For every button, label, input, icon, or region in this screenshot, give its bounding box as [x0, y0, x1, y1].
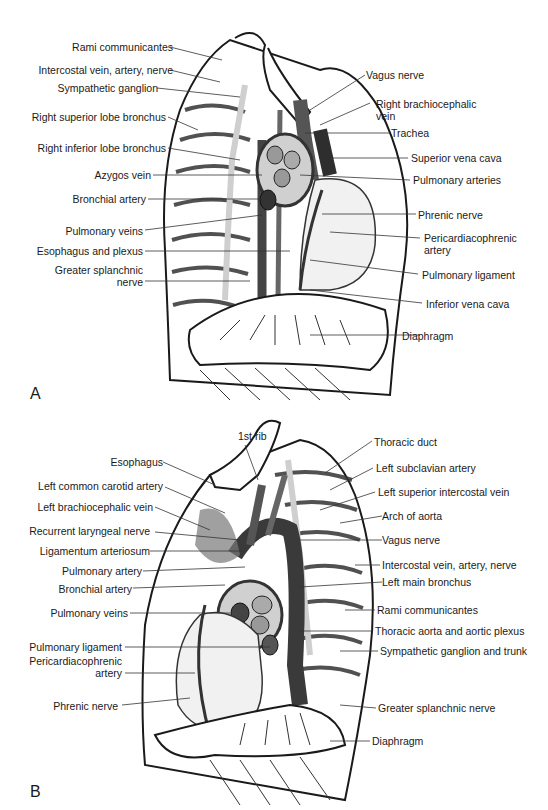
label-left-subclavian-artery: Left subclavian artery [376, 462, 476, 474]
label-left-main-bronchus: Left main bronchus [382, 576, 471, 588]
label-diaphragm: Diaphragm [402, 330, 453, 342]
label-vagus-nerve: Vagus nerve [382, 534, 440, 546]
label-inferior-vena-cava: Inferior vena cava [426, 298, 509, 310]
label-phrenic-nerve: Phrenic nerve [418, 209, 483, 221]
label-bronchial-artery: Bronchial artery [72, 193, 146, 205]
label-pulmonary-ligament: Pulmonary ligament [422, 269, 515, 281]
label-bronchial-artery: Bronchial artery [58, 583, 132, 595]
panel-b-left-mediastinum: 1st rib Esophagus Left common carotid ar… [0, 405, 548, 810]
label-esophagus: Esophagus [110, 456, 163, 468]
label-recurrent-laryngeal-nerve: Recurrent laryngeal nerve [29, 525, 150, 537]
label-arch-of-aorta: Arch of aorta [382, 510, 442, 522]
label-pericardiacophrenic: Pericardiacophrenic [424, 232, 517, 244]
label-azygos-vein: Azygos vein [94, 169, 151, 181]
label-greater-splanchnic-nerve: Greater splanchnic nerve [378, 702, 495, 714]
label-diaphragm: Diaphragm [372, 735, 423, 747]
label-pericardiacophrenic-artery-cont: artery [424, 244, 451, 256]
panel-letter-a: A [30, 385, 41, 403]
label-right-brachiocephalic: Right brachiocephalic [376, 98, 476, 110]
label-intercostal-vein-artery-nerve: Intercostal vein, artery, nerve [382, 559, 517, 571]
label-vagus-nerve: Vagus nerve [366, 69, 424, 81]
label-thoracic-aorta-and-aortic-plexus: Thoracic aorta and aortic plexus [375, 625, 524, 637]
label-sympathetic-ganglion-and-trunk: Sympathetic ganglion and trunk [380, 645, 527, 657]
label-trachea: Trachea [391, 127, 429, 139]
label-greater-splanchnic-nerve-cont: nerve [117, 276, 143, 288]
label-thoracic-duct: Thoracic duct [374, 436, 437, 448]
label-right-superior-lobe-bronchus: Right superior lobe bronchus [32, 111, 166, 123]
label-pulmonary-artery: Pulmonary artery [62, 565, 142, 577]
label-rami-communicantes: Rami communicantes [377, 604, 478, 616]
label-pulmonary-veins: Pulmonary veins [50, 607, 128, 619]
label-esophagus-and-plexus: Esophagus and plexus [37, 245, 143, 257]
panel-a-right-mediastinum: Rami communicantes Intercostal vein, art… [0, 0, 548, 405]
label-pulmonary-arteries: Pulmonary arteries [413, 174, 501, 186]
label-right-inferior-lobe-bronchus: Right inferior lobe bronchus [38, 142, 166, 154]
label-pulmonary-ligament: Pulmonary ligament [29, 641, 122, 653]
label-pericardiacophrenic: Pericardiacophrenic [29, 655, 122, 667]
label-intercostal-vein-artery-nerve: Intercostal vein, artery, nerve [38, 64, 173, 76]
panel-letter-b: B [30, 783, 41, 801]
label-left-superior-intercostal-vein: Left superior intercostal vein [378, 486, 509, 498]
label-sympathetic-ganglion: Sympathetic ganglion [58, 82, 158, 94]
label-right-brachiocephalic-vein-cont: vein [376, 110, 395, 122]
label-ligamentum-arteriosum: Ligamentum arteriosum [40, 545, 150, 557]
label-left-common-carotid-artery: Left common carotid artery [38, 480, 163, 492]
label-greater-splanchnic: Greater splanchnic [55, 264, 143, 276]
label-rami-communicantes: Rami communicantes [72, 41, 173, 53]
label-1st-rib: 1st rib [238, 430, 267, 442]
label-left-brachiocephalic-vein: Left brachiocephalic vein [37, 501, 153, 513]
label-pulmonary-veins: Pulmonary veins [65, 225, 143, 237]
label-pericardiacophrenic-artery-cont: artery [95, 667, 122, 679]
label-phrenic-nerve: Phrenic nerve [53, 700, 118, 712]
label-superior-vena-cava: Superior vena cava [411, 152, 501, 164]
